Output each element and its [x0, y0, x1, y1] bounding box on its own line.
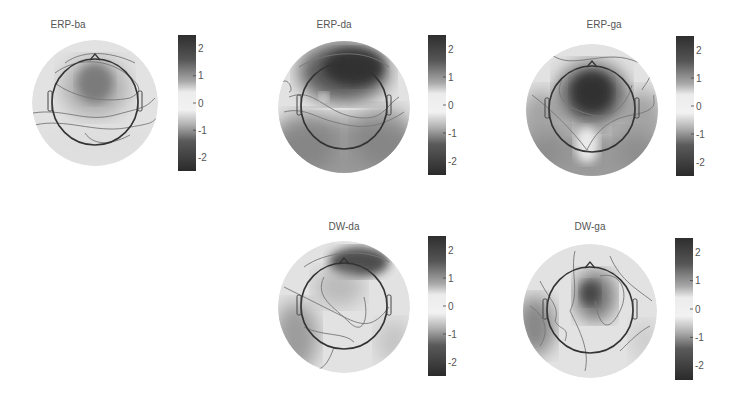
potential-region	[319, 92, 329, 102]
colorbar-tick-label: -2	[695, 360, 704, 371]
colorbar-tick-label: -1	[198, 125, 207, 136]
colorbar-tick-label: 2	[695, 247, 701, 258]
colorbar-tick-label: 1	[448, 273, 454, 284]
colorbar-tick-label: 2	[448, 245, 454, 256]
potential-region	[77, 63, 113, 103]
colorbar: 210-1-2	[675, 238, 704, 380]
colorbar: 210-1-2	[428, 35, 457, 175]
colorbar-tick-label: 0	[448, 301, 454, 312]
colorbar-tick-label: 2	[448, 44, 454, 55]
colorbar: 210-1-2	[676, 36, 705, 176]
colorbar-tick-label: 1	[696, 73, 702, 84]
plot-title: DW-da	[329, 221, 360, 232]
colorbar-tick-label: 0	[198, 98, 204, 109]
colorbar-tick-label: -1	[696, 129, 705, 140]
colorbar: 210-1-2	[428, 236, 457, 376]
potential-region	[630, 321, 660, 361]
topoplot-erp-ba: ERP-ba210-1-2	[32, 19, 207, 171]
potential-region	[575, 127, 599, 163]
colorbar-tick-label: -2	[448, 156, 457, 167]
colorbar-tick-label: 1	[448, 72, 454, 83]
plot-title: DW-ga	[575, 221, 606, 232]
potential-region	[517, 90, 567, 170]
colorbar-tick-label: 2	[198, 43, 204, 54]
colorbar-tick-label: -2	[696, 157, 705, 168]
colorbar-tick-label: 1	[198, 70, 204, 81]
colorbar-tick-label: 0	[448, 100, 454, 111]
plot-title: ERP-da	[316, 19, 351, 30]
colorbar-tick-label: 1	[695, 275, 701, 286]
colorbar-tick-label: 0	[696, 101, 702, 112]
colorbar: 210-1-2	[178, 35, 207, 171]
potential-region	[572, 72, 612, 112]
plot-title: ERP-ba	[50, 19, 85, 30]
colorbar-tick-label: -2	[448, 357, 457, 368]
potential-region	[515, 296, 555, 356]
colorbar-tick-label: -1	[695, 332, 704, 343]
colorbar-tick-label: -1	[448, 329, 457, 340]
topoplot-erp-ga: ERP-ga210-1-2	[512, 19, 705, 190]
colorbar-tick-label: -1	[448, 128, 457, 139]
potential-region	[580, 281, 600, 305]
colorbar-tick-label: 2	[696, 45, 702, 56]
potential-region	[274, 302, 318, 372]
potential-region	[354, 107, 414, 167]
topoplot-erp-da: ERP-da210-1-2	[264, 19, 457, 187]
topoplot-dw-ga: DW-ga210-1-2	[515, 221, 704, 380]
plot-title: ERP-ga	[586, 19, 621, 30]
topoplot-dw-da: DW-da210-1-2	[274, 221, 457, 376]
colorbar-tick-label: 0	[695, 304, 701, 315]
topoplot-figure: ERP-ba210-1-2ERP-da210-1-2ERP-ga210-1-2D…	[0, 0, 732, 402]
potential-region	[40, 123, 150, 163]
colorbar-tick-label: -2	[198, 152, 207, 163]
